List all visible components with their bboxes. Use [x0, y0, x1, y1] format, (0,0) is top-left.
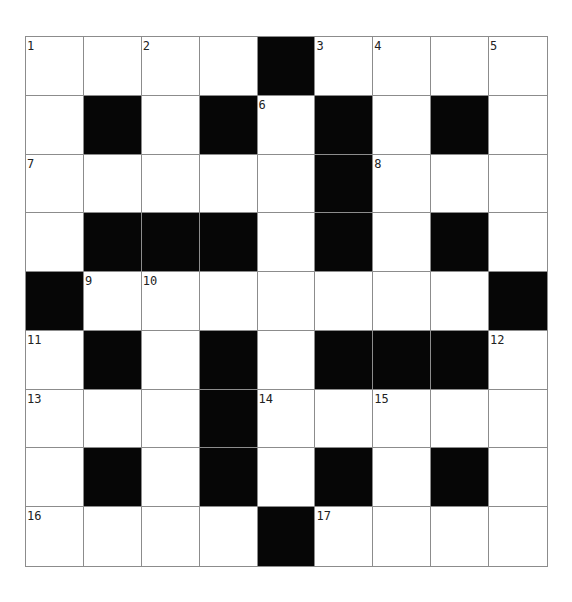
- cell-letter: [431, 404, 488, 448]
- cell-letter: [26, 169, 83, 213]
- answer-cell[interactable]: [84, 507, 142, 566]
- cell-letter: [315, 521, 372, 566]
- answer-cell[interactable]: [373, 96, 431, 155]
- cell-letter: [84, 521, 141, 566]
- answer-cell[interactable]: [200, 507, 258, 566]
- answer-cell[interactable]: 3: [315, 37, 373, 96]
- cell-letter: [142, 286, 199, 330]
- crossword-grid: 1234567891011121314151617: [25, 36, 548, 567]
- answer-cell[interactable]: 2: [142, 37, 200, 96]
- answer-cell[interactable]: [142, 331, 200, 390]
- answer-cell[interactable]: 13: [26, 390, 84, 449]
- answer-cell[interactable]: [489, 155, 547, 214]
- answer-cell[interactable]: [258, 155, 316, 214]
- black-cell: [431, 448, 489, 507]
- cell-letter: [315, 286, 372, 330]
- cell-letter: [84, 286, 141, 330]
- cell-letter: [489, 51, 547, 95]
- answer-cell[interactable]: [200, 272, 258, 331]
- cell-letter: [373, 110, 430, 154]
- answer-cell[interactable]: 8: [373, 155, 431, 214]
- cell-letter: [489, 110, 547, 154]
- black-cell: [258, 507, 316, 566]
- black-cell: [84, 448, 142, 507]
- cell-letter: [489, 227, 547, 271]
- answer-cell[interactable]: [489, 213, 547, 272]
- answer-cell[interactable]: [26, 96, 84, 155]
- black-cell: [142, 213, 200, 272]
- answer-cell[interactable]: [489, 390, 547, 449]
- answer-cell[interactable]: [431, 272, 489, 331]
- answer-cell[interactable]: 1: [26, 37, 84, 96]
- cell-letter: [142, 345, 199, 389]
- answer-cell[interactable]: 7: [26, 155, 84, 214]
- answer-cell[interactable]: [373, 213, 431, 272]
- answer-cell[interactable]: [142, 390, 200, 449]
- answer-cell[interactable]: [315, 272, 373, 331]
- answer-cell[interactable]: [489, 448, 547, 507]
- answer-cell[interactable]: [431, 155, 489, 214]
- cell-letter: [26, 404, 83, 448]
- answer-cell[interactable]: [315, 390, 373, 449]
- answer-cell[interactable]: [142, 96, 200, 155]
- answer-cell[interactable]: 17: [315, 507, 373, 566]
- answer-cell[interactable]: [431, 37, 489, 96]
- cell-letter: [142, 110, 199, 154]
- answer-cell[interactable]: [142, 448, 200, 507]
- answer-cell[interactable]: [258, 213, 316, 272]
- black-cell: [200, 96, 258, 155]
- black-cell: [200, 331, 258, 390]
- answer-cell[interactable]: [26, 213, 84, 272]
- answer-cell[interactable]: [258, 448, 316, 507]
- cell-letter: [84, 404, 141, 448]
- black-cell: [84, 96, 142, 155]
- answer-cell[interactable]: 5: [489, 37, 547, 96]
- cell-letter: [142, 462, 199, 506]
- cell-letter: [373, 51, 430, 95]
- answer-cell[interactable]: [431, 390, 489, 449]
- answer-cell[interactable]: 11: [26, 331, 84, 390]
- answer-cell[interactable]: [200, 155, 258, 214]
- answer-cell[interactable]: [142, 507, 200, 566]
- black-cell: [431, 213, 489, 272]
- cell-letter: [489, 462, 547, 506]
- answer-cell[interactable]: 6: [258, 96, 316, 155]
- answer-cell[interactable]: [84, 37, 142, 96]
- answer-cell[interactable]: [200, 37, 258, 96]
- black-cell: [431, 331, 489, 390]
- answer-cell[interactable]: [373, 272, 431, 331]
- black-cell: [84, 213, 142, 272]
- answer-cell[interactable]: [84, 390, 142, 449]
- answer-cell[interactable]: [373, 507, 431, 566]
- cell-letter: [142, 521, 199, 566]
- answer-cell[interactable]: 14: [258, 390, 316, 449]
- answer-cell[interactable]: [258, 272, 316, 331]
- answer-cell[interactable]: [84, 155, 142, 214]
- crossword-page: 1234567891011121314151617: [0, 0, 572, 602]
- answer-cell[interactable]: [489, 96, 547, 155]
- black-cell: [373, 331, 431, 390]
- cell-letter: [26, 521, 83, 566]
- answer-cell[interactable]: [373, 448, 431, 507]
- cell-letter: [26, 51, 83, 95]
- cell-letter: [489, 345, 547, 389]
- black-cell: [200, 213, 258, 272]
- answer-cell[interactable]: [26, 448, 84, 507]
- answer-cell[interactable]: 4: [373, 37, 431, 96]
- cell-letter: [373, 286, 430, 330]
- black-cell: [200, 390, 258, 449]
- cell-letter: [84, 169, 141, 213]
- answer-cell[interactable]: [258, 331, 316, 390]
- cell-letter: [373, 521, 430, 566]
- answer-cell[interactable]: 15: [373, 390, 431, 449]
- answer-cell[interactable]: 9: [84, 272, 142, 331]
- answer-cell[interactable]: [142, 155, 200, 214]
- answer-cell[interactable]: [489, 507, 547, 566]
- answer-cell[interactable]: 12: [489, 331, 547, 390]
- answer-cell[interactable]: 16: [26, 507, 84, 566]
- cell-letter: [258, 286, 315, 330]
- answer-cell[interactable]: [431, 507, 489, 566]
- answer-cell[interactable]: 10: [142, 272, 200, 331]
- cell-letter: [258, 462, 315, 506]
- cell-letter: [26, 227, 83, 271]
